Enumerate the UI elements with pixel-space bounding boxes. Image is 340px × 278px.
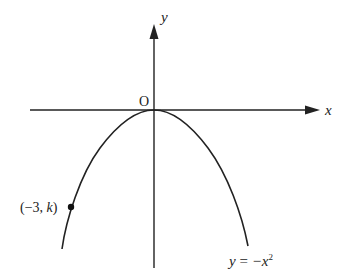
point-marker: [68, 204, 74, 210]
y-axis-arrow-icon: [150, 24, 159, 39]
point-label: (−3, k): [20, 200, 58, 216]
origin-label: O: [139, 94, 149, 109]
parabola-diagram: y x O (−3, k) y = −x2: [0, 0, 340, 278]
x-axis-arrow-icon: [305, 106, 320, 115]
parabola-curve: [62, 110, 248, 249]
y-axis-label: y: [159, 9, 168, 25]
x-axis-label: x: [324, 102, 332, 118]
equation-label: y = −x2: [227, 252, 273, 269]
